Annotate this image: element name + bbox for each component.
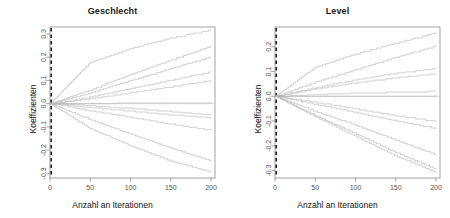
- svg-text:-0.2: -0.2: [41, 144, 48, 156]
- svg-text:0: 0: [273, 184, 277, 191]
- coefficient-path: [50, 104, 211, 118]
- coefficient-path: [50, 72, 211, 104]
- coefficient-path: [275, 96, 436, 155]
- svg-text:150: 150: [390, 184, 402, 191]
- panel-geschlecht: Geschlecht Koeffizienten Anzahl an Itera…: [0, 0, 225, 218]
- svg-text:0.0: 0.0: [266, 91, 273, 101]
- panel-level: Level Koeffizienten Anzahl an Iteratione…: [225, 0, 450, 218]
- svg-text:50: 50: [311, 184, 319, 191]
- svg-text:-0.1: -0.1: [41, 121, 48, 133]
- coefficient-path: [275, 96, 436, 169]
- coefficient-path: [50, 104, 211, 173]
- svg-text:-0.1: -0.1: [266, 115, 273, 127]
- coefficient-paths-figure: Geschlecht Koeffizienten Anzahl an Itera…: [0, 0, 450, 218]
- coefficient-path: [50, 57, 211, 104]
- svg-text:0.1: 0.1: [41, 75, 48, 85]
- plot-area-right: 0.20.10.0-0.1-0.2-0.3050100150200: [225, 0, 450, 218]
- svg-text:0.2: 0.2: [266, 42, 273, 52]
- svg-text:100: 100: [350, 184, 362, 191]
- coefficient-path: [50, 46, 211, 104]
- coefficient-path: [275, 46, 436, 96]
- svg-text:100: 100: [125, 184, 137, 191]
- coefficient-path: [275, 96, 436, 122]
- svg-text:50: 50: [86, 184, 94, 191]
- svg-text:200: 200: [205, 184, 217, 191]
- svg-text:200: 200: [430, 184, 442, 191]
- svg-text:0: 0: [48, 184, 52, 191]
- svg-text:0.0: 0.0: [41, 99, 48, 109]
- svg-text:-0.3: -0.3: [41, 167, 48, 179]
- svg-text:0.1: 0.1: [266, 67, 273, 77]
- svg-text:-0.2: -0.2: [266, 140, 273, 152]
- svg-text:150: 150: [165, 184, 177, 191]
- coefficient-path: [50, 104, 211, 162]
- coefficient-path: [275, 32, 436, 96]
- plot-area-left: 0.30.20.10.0-0.1-0.2-0.3050100150200: [0, 0, 225, 218]
- svg-text:0.3: 0.3: [41, 29, 48, 39]
- svg-text:-0.3: -0.3: [266, 164, 273, 176]
- svg-text:0.2: 0.2: [41, 52, 48, 62]
